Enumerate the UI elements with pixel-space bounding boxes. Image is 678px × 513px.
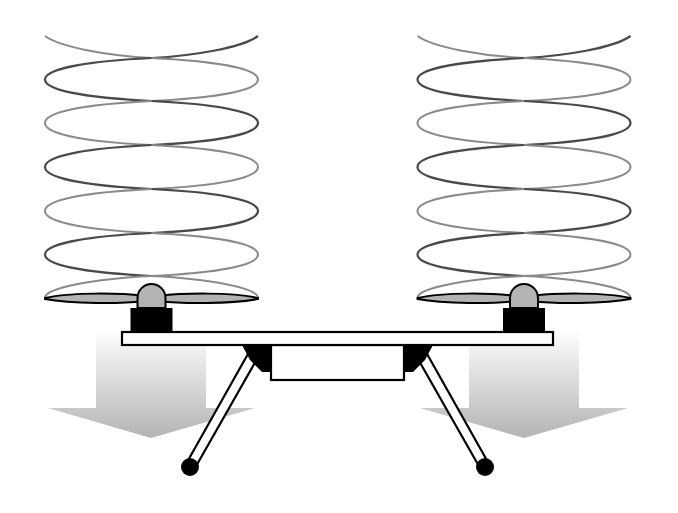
downwash-arrow-right xyxy=(420,330,628,438)
airflow-helix-left xyxy=(45,36,258,297)
downwash-arrow-left xyxy=(48,330,255,438)
diagram-canvas xyxy=(0,0,678,513)
rotor-right xyxy=(418,284,631,333)
drone-diagram: Quadcopter rotor downwash illustration xyxy=(0,0,678,513)
airflow-helix-right xyxy=(418,36,631,297)
drone-body xyxy=(242,345,433,380)
rotor-left xyxy=(45,284,258,333)
drone-arm xyxy=(122,332,553,345)
